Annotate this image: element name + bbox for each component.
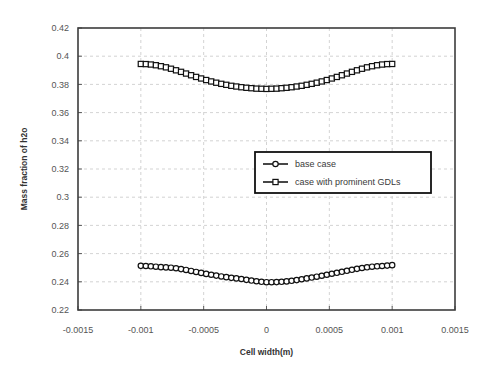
data-point-marker	[244, 85, 249, 90]
legend-label: case with prominent GDLs	[295, 177, 401, 187]
x-tick-label: 0	[264, 325, 269, 335]
data-point-marker	[254, 86, 259, 91]
data-point-marker	[204, 77, 209, 82]
y-tick-label: 0.24	[51, 277, 69, 287]
data-point-marker	[138, 61, 143, 66]
y-tick-label: 0.28	[51, 221, 69, 231]
data-point-marker	[183, 71, 188, 76]
data-point-marker	[309, 81, 314, 86]
y-tick-label: 0.32	[51, 164, 69, 174]
chart-figure: 0.220.240.260.280.30.320.340.360.380.40.…	[0, 0, 492, 365]
data-point-marker	[299, 83, 304, 88]
data-point-marker	[304, 82, 309, 87]
data-point-marker	[214, 80, 219, 85]
chart-legend: base casecase with prominent GDLs	[255, 152, 431, 193]
y-tick-label: 0.38	[51, 80, 69, 90]
x-tick-label: -0.0015	[63, 325, 94, 335]
data-point-marker	[249, 86, 254, 91]
data-point-marker	[239, 85, 244, 90]
data-point-marker	[364, 65, 369, 70]
data-point-marker	[168, 66, 173, 71]
legend-label: base case	[295, 159, 336, 169]
data-point-marker	[163, 65, 168, 70]
legend-sample-marker	[273, 179, 278, 184]
data-point-marker	[324, 77, 329, 82]
mass-fraction-line-chart: 0.220.240.260.280.30.320.340.360.380.40.…	[0, 0, 492, 365]
data-point-marker	[173, 68, 178, 73]
data-point-marker	[319, 79, 324, 84]
data-point-marker	[274, 86, 279, 91]
data-point-marker	[189, 73, 194, 78]
data-point-marker	[334, 74, 339, 79]
data-point-marker	[374, 63, 379, 68]
x-tick-label: 0.0005	[316, 325, 344, 335]
data-point-marker	[314, 80, 319, 85]
data-point-marker	[359, 66, 364, 71]
data-point-marker	[153, 63, 158, 68]
x-tick-label: 0.0015	[441, 325, 469, 335]
data-point-marker	[178, 69, 183, 74]
data-point-marker	[259, 86, 264, 91]
data-point-marker	[380, 62, 385, 67]
data-point-marker	[158, 64, 163, 69]
y-axis-title: Mass fraction of h2o	[19, 128, 29, 211]
data-point-marker	[219, 81, 224, 86]
data-point-marker	[329, 76, 334, 81]
data-point-marker	[354, 68, 359, 73]
data-point-marker	[284, 85, 289, 90]
data-point-marker	[349, 69, 354, 74]
y-tick-label: 0.4	[56, 51, 69, 61]
data-point-marker	[148, 62, 153, 67]
data-point-marker	[229, 83, 234, 88]
data-point-marker	[199, 76, 204, 81]
data-point-marker	[279, 86, 284, 91]
y-tick-label: 0.3	[56, 192, 69, 202]
y-tick-label: 0.22	[51, 305, 69, 315]
y-tick-label: 0.36	[51, 108, 69, 118]
data-point-marker	[209, 79, 214, 84]
data-point-marker	[344, 71, 349, 76]
x-tick-label: 0.001	[381, 325, 404, 335]
legend-sample-marker	[273, 161, 278, 166]
y-tick-label: 0.34	[51, 136, 69, 146]
data-point-marker	[339, 73, 344, 78]
data-point-marker	[294, 84, 299, 89]
x-axis-title: Cell width(m)	[240, 347, 294, 357]
data-point-marker	[264, 86, 269, 91]
data-point-marker	[369, 64, 374, 69]
data-point-marker	[289, 85, 294, 90]
data-point-marker	[224, 82, 229, 87]
data-point-marker	[389, 262, 394, 267]
y-tick-label: 0.26	[51, 249, 69, 259]
data-point-marker	[194, 74, 199, 79]
data-point-marker	[234, 84, 239, 89]
y-tick-label: 0.42	[51, 23, 69, 33]
data-point-marker	[390, 61, 395, 66]
x-tick-label: -0.001	[128, 325, 154, 335]
x-tick-label: -0.0005	[188, 325, 219, 335]
data-point-marker	[143, 61, 148, 66]
data-point-marker	[385, 61, 390, 66]
data-point-marker	[269, 86, 274, 91]
